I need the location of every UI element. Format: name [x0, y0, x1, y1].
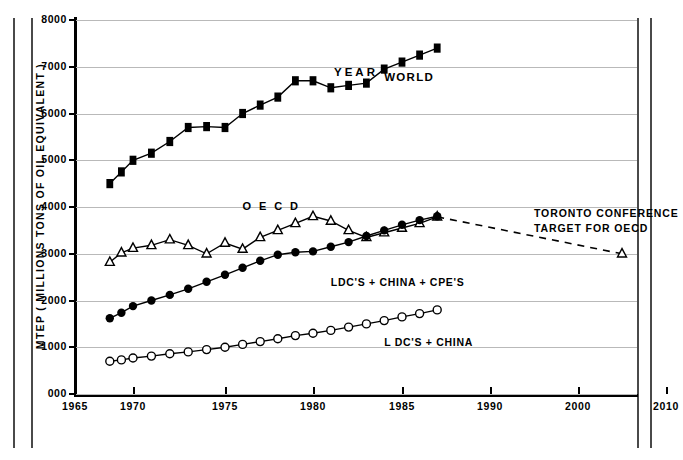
data-point: [398, 313, 406, 321]
data-point: [130, 156, 137, 165]
data-point: [415, 216, 423, 224]
page-frame-left-inner: [31, 18, 33, 448]
data-point: [362, 232, 370, 240]
data-point: [257, 101, 264, 110]
data-point: [256, 338, 264, 346]
data-point: [274, 251, 282, 259]
data-point: [274, 335, 282, 343]
data-point: [106, 314, 114, 322]
annotation-toronto-target: TORONTO CONFERENCE TARGET FOR OECD: [534, 206, 679, 236]
data-point: [344, 238, 352, 246]
data-point: [185, 123, 192, 132]
y-tick-label: 6000: [21, 107, 67, 119]
data-point: [327, 243, 335, 251]
y-tick-label: 5000: [21, 153, 67, 165]
x-tick-label: 1970: [103, 400, 163, 412]
data-point: [416, 51, 423, 60]
y-tick-label: 000: [21, 387, 67, 399]
y-tick-label: 7000: [21, 60, 67, 72]
x-axis-title: YEAR: [75, 66, 637, 78]
data-point: [380, 226, 388, 234]
data-point: [309, 211, 318, 219]
y-tick-label: 4000: [21, 200, 67, 212]
x-tick-label: 2010: [636, 400, 683, 412]
data-point: [184, 348, 192, 356]
data-point: [345, 323, 353, 331]
data-point: [274, 93, 281, 102]
data-point: [416, 310, 424, 318]
data-point: [433, 306, 441, 314]
data-point: [166, 291, 174, 299]
y-tick-label: 2000: [21, 294, 67, 306]
x-tick: [666, 387, 668, 394]
data-point: [433, 212, 441, 220]
data-point: [345, 81, 352, 90]
data-point: [202, 278, 210, 286]
series-label-ldc-china-cpe: LDC'S + CHINA + CPE'S: [331, 276, 465, 288]
data-point: [363, 79, 370, 88]
y-tick-label: 1000: [21, 340, 67, 352]
page-frame-left-outer: [13, 18, 15, 448]
data-point: [117, 309, 125, 317]
data-point: [117, 356, 125, 364]
data-point: [203, 122, 210, 131]
toronto-line-1: TORONTO CONFERENCE: [534, 206, 679, 221]
data-point: [147, 296, 155, 304]
y-tick-label: 8000: [21, 13, 67, 25]
series-label-ldc-china: L DC'S + CHINA: [384, 336, 473, 348]
data-point: [147, 352, 155, 360]
data-point: [106, 179, 113, 188]
x-tick-label: 1985: [372, 400, 432, 412]
data-point: [434, 44, 441, 53]
toronto-line-2: TARGET FOR OECD: [534, 221, 679, 236]
data-point: [221, 238, 230, 246]
data-point: [129, 302, 137, 310]
data-point: [221, 343, 229, 351]
data-point: [221, 271, 229, 279]
data-point: [222, 123, 229, 132]
data-point: [291, 332, 299, 340]
data-point: [398, 221, 406, 229]
series-label-oecd: O E C D: [243, 200, 301, 212]
data-point: [256, 257, 264, 265]
data-point: [184, 285, 192, 293]
data-point: [166, 137, 173, 146]
x-tick-label: 1980: [283, 400, 343, 412]
data-point: [165, 235, 174, 243]
data-point: [380, 317, 388, 325]
data-point: [327, 326, 335, 334]
series-oecd: [105, 211, 441, 265]
x-tick-label: 1975: [195, 400, 255, 412]
data-point: [309, 329, 317, 337]
x-tick-label: 2000: [548, 400, 608, 412]
data-point: [291, 248, 299, 256]
data-point: [166, 350, 174, 358]
y-tick-label: 3000: [21, 247, 67, 259]
data-point: [239, 340, 247, 348]
x-tick-label: 1990: [460, 400, 520, 412]
data-point: [362, 320, 370, 328]
plot-area: 00010002000300040005000600070008000 1965…: [75, 20, 637, 394]
data-point: [129, 354, 137, 362]
x-tick-label: 1965: [45, 400, 105, 412]
data-point: [118, 167, 125, 176]
series-ldc-s-china-cpe-s: [106, 212, 442, 322]
data-point: [106, 357, 114, 365]
data-point: [203, 346, 211, 354]
data-point: [238, 264, 246, 272]
data-point: [327, 83, 334, 92]
data-point: [148, 149, 155, 158]
data-point: [239, 109, 246, 118]
data-point: [309, 247, 317, 255]
data-point: [105, 257, 114, 265]
series-line: [110, 216, 437, 262]
gridline: [75, 394, 637, 395]
